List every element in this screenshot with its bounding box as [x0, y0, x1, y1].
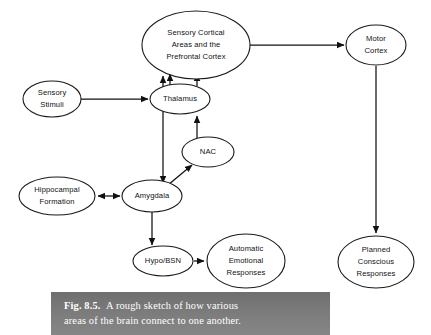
node-sensory-cortical-label-line2: Areas and the [172, 40, 221, 49]
node-motor-cortex[interactable]: Motor Cortex [346, 25, 406, 65]
node-sensory-cortical-label-line3: Prefrontal Cortex [166, 52, 225, 61]
node-amygdala-label: Amygdala [135, 191, 170, 200]
figure-caption-line-1: Fig. 8.5. A rough sketch of how various [64, 299, 330, 314]
node-amygdala[interactable]: Amygdala [122, 180, 182, 212]
figure-caption-bar: Fig. 8.5. A rough sketch of how various … [51, 292, 330, 335]
node-motor-cortex-shape[interactable] [346, 25, 406, 65]
node-planned-conscious-responses-label-line1: Planned [362, 245, 391, 254]
node-automatic-emotional-responses-label-line1: Automatic [229, 244, 264, 253]
node-motor-cortex-label-line1: Motor [366, 34, 386, 43]
node-nac[interactable]: NAC [182, 137, 234, 167]
node-sensory-cortical-label-line1: Sensory Cortical [167, 28, 225, 37]
node-automatic-emotional-responses-label-line3: Responses [227, 268, 266, 277]
node-hippocampal-formation-label-line1: Hippocampal [34, 185, 80, 194]
figure-caption-text-1: A rough sketch of how various [106, 300, 238, 311]
node-motor-cortex-label-line2: Cortex [365, 46, 388, 55]
figure-number: Fig. 8.5. [64, 300, 106, 311]
node-hypo-bsn-label: Hypo/BSN [145, 256, 181, 265]
figure-container: Sensory Cortical Areas and the Prefronta… [0, 0, 431, 335]
node-sensory-stimuli-label-line1: Sensory [38, 88, 67, 97]
node-nac-label: NAC [200, 147, 217, 156]
edge-amygdala-to-nac [168, 165, 192, 185]
node-planned-conscious-responses-label-line2: Conscious [358, 257, 394, 266]
node-automatic-emotional-responses-label-line2: Emotional [229, 256, 264, 265]
node-layer: Sensory Cortical Areas and the Prefronta… [19, 11, 414, 288]
node-automatic-emotional-responses[interactable]: Automatic Emotional Responses [207, 234, 285, 288]
node-planned-conscious-responses-label-line3: Responses [357, 269, 396, 278]
node-hippocampal-formation-label-line2: Formation [39, 197, 74, 206]
node-thalamus-label: Thalamus [163, 94, 197, 103]
node-hippocampal-formation[interactable]: Hippocampal Formation [19, 177, 95, 215]
node-sensory-stimuli-label-line2: Stimuli [40, 100, 64, 109]
node-hippocampal-formation-shape[interactable] [19, 177, 95, 215]
node-hypo-bsn[interactable]: Hypo/BSN [133, 246, 193, 276]
node-planned-conscious-responses[interactable]: Planned Conscious Responses [338, 236, 414, 288]
node-sensory-cortical[interactable]: Sensory Cortical Areas and the Prefronta… [142, 11, 250, 79]
brain-connection-diagram: Sensory Cortical Areas and the Prefronta… [0, 0, 431, 335]
node-sensory-stimuli-shape[interactable] [23, 81, 81, 117]
figure-caption-line-2: areas of the brain connect to one anothe… [64, 314, 330, 329]
node-sensory-stimuli[interactable]: Sensory Stimuli [23, 81, 81, 117]
node-thalamus[interactable]: Thalamus [150, 84, 210, 114]
